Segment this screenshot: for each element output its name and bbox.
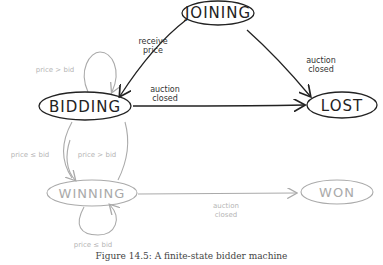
edge-label-closed: closed bbox=[152, 94, 178, 103]
state-label: BIDDING bbox=[49, 98, 121, 116]
active-edges bbox=[120, 20, 310, 106]
inactive-edges bbox=[64, 52, 296, 235]
edge-label-bidding-to-winning: price > bid bbox=[78, 151, 117, 159]
state-label: WON bbox=[319, 185, 355, 200]
edge-label-winning-to-bidding: price ≤ bid bbox=[11, 151, 50, 159]
edge-label-closed: closed bbox=[308, 65, 334, 74]
edge-label-auction: auction bbox=[213, 202, 239, 210]
state-joining: JOINING bbox=[182, 1, 254, 25]
edge-label-bidding-self: price > bid bbox=[36, 66, 75, 74]
edge-label-receive: receive bbox=[138, 37, 167, 46]
edge-bidding-to-lost bbox=[133, 105, 304, 106]
edge-bidding-self-loop bbox=[84, 52, 116, 92]
edge-joining-to-lost bbox=[247, 30, 310, 96]
state-machine-diagram: JOINING BIDDING LOST WINNING WON receive… bbox=[0, 0, 383, 250]
state-label: LOST bbox=[321, 97, 363, 115]
edge-label-auction: auction bbox=[306, 56, 336, 65]
edge-label-closed: closed bbox=[215, 211, 237, 219]
state-winning: WINNING bbox=[47, 180, 137, 206]
edge-label-auction: auction bbox=[150, 85, 180, 94]
state-label: WINNING bbox=[59, 186, 126, 201]
edge-label-price: price bbox=[143, 46, 163, 55]
state-label: JOINING bbox=[184, 4, 251, 22]
state-won: WON bbox=[301, 180, 373, 204]
edge-winning-to-won bbox=[138, 193, 296, 194]
state-bidding: BIDDING bbox=[39, 92, 131, 120]
edge-label-winning-self: price ≤ bid bbox=[74, 241, 113, 249]
state-lost: LOST bbox=[307, 92, 377, 118]
figure-caption: Figure 14.5: A finite-state bidder machi… bbox=[0, 251, 383, 261]
edge-winning-self-loop bbox=[79, 205, 116, 235]
edge-bidding-to-winning bbox=[67, 140, 75, 180]
